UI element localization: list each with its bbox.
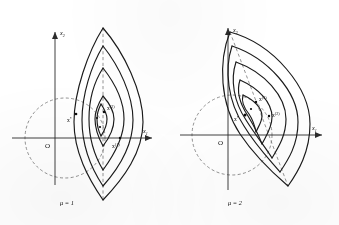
origin-label: O — [45, 142, 50, 150]
point-x-star-marker — [75, 113, 78, 116]
contour-outer-left — [223, 32, 288, 186]
contour-fourth-left — [95, 96, 103, 146]
y-axis-label: x2 — [59, 29, 65, 38]
point-x-star-marker — [244, 114, 247, 117]
point-x-2-marker — [268, 115, 270, 117]
point-label-x-star: x* — [234, 115, 239, 122]
origin-label: O — [218, 139, 223, 147]
contour-outer-right — [230, 32, 310, 186]
panel-mu-1: x1 x2 O x* x(1) x(2) μ = 1 — [0, 0, 169, 225]
x-axis-arrowhead — [145, 135, 152, 141]
point-x-1-marker — [119, 137, 121, 139]
point-inner-a-marker — [250, 108, 252, 110]
point-label-x-2: x(2) — [107, 104, 115, 111]
point-x-3-marker — [255, 101, 257, 103]
contour-fourth-left — [238, 80, 262, 144]
y-axis-arrowhead — [52, 32, 58, 39]
contour-third-left — [89, 68, 103, 170]
x-axis-label: x1 — [142, 127, 148, 136]
point-label-x-star: x* — [67, 116, 72, 123]
contour-symmetry-axis — [230, 32, 288, 186]
point-label-x-3: x(3) — [259, 95, 267, 102]
contour-third-left — [233, 62, 272, 158]
contour-innermost-left — [97, 104, 101, 136]
panel-caption: μ = 2 — [228, 199, 243, 206]
panel-caption: μ = 1 — [60, 199, 74, 206]
point-x-2-marker — [103, 111, 105, 113]
point-label-x-2: x(2) — [272, 111, 280, 118]
figure-container: x1 x2 O x* x(1) x(2) μ = 1 — [0, 0, 339, 225]
panel-left-canvas: x1 x2 O x* x(1) x(2) μ = 1 — [0, 0, 169, 225]
point-inner-b-marker — [99, 126, 101, 128]
panel-mu-2: x1 x2 O x* x(3) x(2) μ = 2 — [170, 0, 339, 225]
x-axis-label: x1 — [311, 124, 317, 133]
point-inner-a-marker — [96, 117, 98, 119]
x-axis-arrowhead — [315, 132, 322, 138]
panel-right-canvas: x1 x2 O x* x(3) x(2) μ = 2 — [170, 0, 339, 225]
